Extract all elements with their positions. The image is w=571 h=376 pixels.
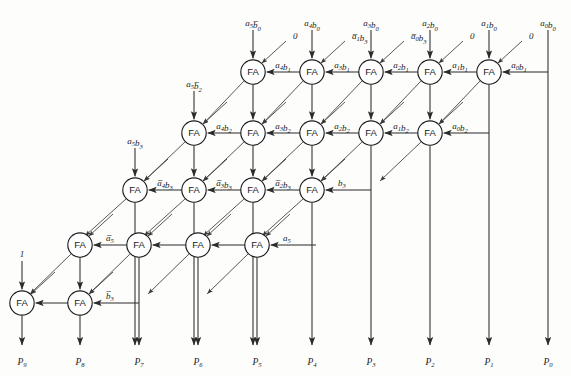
diagonal-sum-in-wire xyxy=(207,214,231,236)
side-input-label: a̅3b3 xyxy=(216,178,232,192)
diagonal-sum-in-wire xyxy=(321,102,345,124)
diagonal-input-label: a̅0b3 xyxy=(411,31,427,45)
side-input-label: b3 xyxy=(338,178,347,189)
diagonal-input-label: a̅1b3 xyxy=(352,31,368,45)
top-input-label: 1 xyxy=(20,249,25,259)
output-label: P8 xyxy=(74,357,85,368)
top-input-label: a3b0 xyxy=(363,18,379,32)
top-input-label: a5b̅0 xyxy=(245,18,261,32)
diagonal-carry-out-wire xyxy=(262,199,303,236)
fa-cell-label: FA xyxy=(188,127,200,138)
top-input-label: a2b0 xyxy=(422,18,438,32)
side-input-label: a4b1 xyxy=(275,60,291,74)
side-input-label: a̅2b3 xyxy=(275,178,291,192)
fa-cell-label: FA xyxy=(306,127,318,138)
side-input-label: b̅3 xyxy=(106,291,115,302)
top-input-label: a0b0 xyxy=(540,18,556,32)
diagonal-carry-out-wire xyxy=(262,81,303,124)
output-label: P5 xyxy=(251,357,262,368)
diagonal-carry-out-wire xyxy=(207,254,248,294)
diagonal-carry-out-wire xyxy=(380,81,421,124)
diagonal-carry-out-wire xyxy=(380,142,421,181)
diagonal-input-label: 0 xyxy=(470,31,475,41)
side-input-label: a0b2 xyxy=(452,121,468,135)
diagonal-sum-in-wire xyxy=(262,41,286,63)
diagonal-carry-out-wire xyxy=(321,81,362,124)
diagonal-sum-in-wire xyxy=(203,102,227,124)
fa-cell-label: FA xyxy=(306,66,318,77)
diagonal-carry-out-wire xyxy=(203,199,244,236)
multiplier-array-diagram: a5b̅0a4b0a3b0a2b0a1b0a0b0a4b10a3b1a̅1b3a… xyxy=(0,0,571,376)
diagonal-carry-out-wire xyxy=(85,199,126,236)
output-label: P4 xyxy=(306,357,317,368)
fa-cell-label: FA xyxy=(247,127,259,138)
diagonal-sum-in-wire xyxy=(321,41,345,63)
side-input-label: a3b2 xyxy=(275,121,291,135)
fa-cell-label: FA xyxy=(251,239,263,250)
diagonal-sum-in-wire xyxy=(203,159,227,181)
side-input-label: a2b2 xyxy=(334,121,350,135)
side-input-label: a2b1 xyxy=(393,60,409,74)
side-input-label: a1b1 xyxy=(452,60,468,74)
fa-cell-label: FA xyxy=(247,66,259,77)
diagonal-sum-in-wire xyxy=(380,41,404,63)
fa-cell-label: FA xyxy=(424,66,436,77)
fa-cell-label: FA xyxy=(247,184,259,195)
diagonal-carry-out-wire xyxy=(30,254,71,294)
fa-cell-label: FA xyxy=(424,127,436,138)
top-input-label: a4b0 xyxy=(304,18,320,32)
side-input-label: a3b1 xyxy=(334,60,350,74)
side-input-label: a5 xyxy=(283,233,292,244)
output-label: P0 xyxy=(542,357,553,368)
diagonal-sum-in-wire xyxy=(262,159,286,181)
fa-cell-label: FA xyxy=(188,184,200,195)
diagonal-sum-in-wire xyxy=(148,214,172,236)
output-label: P1 xyxy=(483,357,493,368)
diagonal-input-label: 0 xyxy=(529,31,534,41)
output-label: P9 xyxy=(16,357,27,368)
fa-cell-label: FA xyxy=(74,239,86,250)
output-label: P6 xyxy=(192,357,203,368)
fa-cell-label: FA xyxy=(74,297,86,308)
diagonal-sum-in-wire xyxy=(439,41,463,63)
fa-cell-label: FA xyxy=(192,239,204,250)
diagonal-input-label: 0 xyxy=(293,31,298,41)
fa-cell-label: FA xyxy=(483,66,495,77)
diagonal-sum-in-wire xyxy=(144,159,168,181)
side-input-label: a1b2 xyxy=(393,121,409,135)
side-input-label: a4b2 xyxy=(216,121,232,135)
top-input-label: a1b0 xyxy=(481,18,497,32)
output-label: P7 xyxy=(133,357,144,368)
diagonal-sum-in-wire xyxy=(498,41,522,63)
diagonal-carry-out-wire xyxy=(203,81,244,124)
fa-cell-label: FA xyxy=(133,239,145,250)
diagonal-sum-in-wire xyxy=(380,102,404,124)
diagram-canvas: a5b̅0a4b0a3b0a2b0a1b0a0b0a4b10a3b1a̅1b3a… xyxy=(0,0,571,376)
fa-cell-label: FA xyxy=(306,184,318,195)
fa-cell-label: FA xyxy=(129,184,141,195)
top-input-label: a5b3 xyxy=(127,136,143,150)
generated-wires-and-cells: a5b̅0a4b0a3b0a2b0a1b0a0b0a4b10a3b1a̅1b3a… xyxy=(10,18,557,368)
side-input-label: a0b1 xyxy=(511,60,527,74)
fa-cell-label: FA xyxy=(16,297,28,308)
diagonal-sum-in-wire xyxy=(262,102,286,124)
side-input-label: a̅4b3 xyxy=(157,178,173,192)
output-label: P3 xyxy=(365,357,376,368)
diagonal-sum-in-wire xyxy=(439,102,463,124)
top-input-label: a5b̅2 xyxy=(186,79,202,93)
output-label: P2 xyxy=(424,357,435,368)
diagonal-sum-in-wire xyxy=(31,272,55,294)
diagonal-carry-out-wire xyxy=(439,81,480,124)
fa-cell-label: FA xyxy=(365,66,377,77)
side-input-label: a̅5 xyxy=(106,233,115,244)
fa-cell-label: FA xyxy=(365,127,377,138)
diagonal-carry-out-wire xyxy=(144,199,185,236)
diagonal-carry-out-wire xyxy=(148,254,189,294)
